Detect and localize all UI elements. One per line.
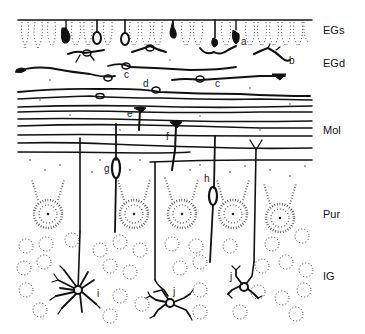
layer-label-pur: Pur [323, 208, 340, 220]
granule-cell-j [146, 280, 193, 320]
cell-label-b: b [289, 55, 295, 66]
cell-label-c: c [124, 69, 129, 80]
cell-label-c2: c [215, 78, 220, 89]
cell-label-e: e [127, 108, 133, 119]
cell-label-h: h [204, 173, 210, 184]
egd-cells [68, 44, 290, 62]
granule-cell-i [50, 232, 100, 314]
purkinje-cell [166, 180, 198, 228]
cell-label-d: d [143, 78, 149, 89]
layer-label-ig: IG [323, 270, 335, 282]
purkinje-cells [32, 180, 296, 232]
layer-label-egs: EGs [323, 24, 344, 36]
purkinje-cell [32, 180, 64, 228]
granule-cell-j [228, 262, 262, 298]
cell-label-i: i [97, 288, 99, 299]
cerebellar-cortex-diagram: a b c d c e f g h i j j [0, 0, 365, 334]
purkinje-cell [264, 184, 296, 232]
egs-dark-cells [61, 20, 239, 47]
cell-label-a: a [241, 36, 247, 47]
cell-label-g: g [104, 163, 110, 174]
cell-label-f: f [166, 131, 169, 142]
layer-label-egd: EGd [323, 57, 345, 69]
vertical-fibers [80, 107, 262, 280]
cell-label-j2: j [229, 271, 232, 282]
purkinje-cell [118, 180, 150, 228]
purkinje-cell [217, 180, 249, 228]
layer-label-mol: Mol [323, 124, 341, 136]
parallel-fibers [16, 63, 312, 162]
cell-label-j: j [172, 286, 175, 297]
